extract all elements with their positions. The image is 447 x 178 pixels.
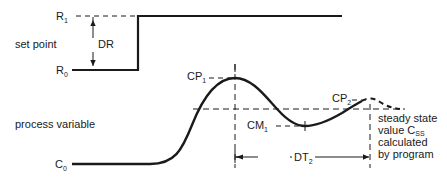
cp1-label: CP1 (187, 70, 206, 84)
r0-label: R0 (56, 64, 68, 78)
step-response-diagram: R1 set point DR R0 process variable C0 C… (0, 0, 447, 178)
process-variable-curve (72, 78, 362, 164)
set-point-label: set point (15, 38, 57, 50)
dt2-label: DT2 (292, 151, 315, 165)
cm1-label: CM1 (247, 119, 268, 133)
dr-label: DR (98, 38, 114, 50)
steady-state-note: steady state value CSS calculated by pro… (378, 113, 437, 160)
cp2-label: CP2 (332, 92, 351, 106)
process-variable-label: process variable (15, 118, 95, 130)
extrapolated-curve (362, 98, 400, 109)
c0-label: C0 (55, 158, 67, 172)
r1-label: R1 (56, 10, 68, 24)
